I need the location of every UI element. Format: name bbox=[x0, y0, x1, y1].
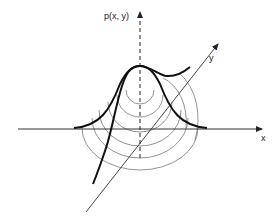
x-axis-label: x bbox=[261, 133, 266, 143]
density-diagram: p(x, y) y x bbox=[0, 0, 278, 222]
marginal-curve-y-back bbox=[140, 66, 190, 76]
y-axis-label: y bbox=[209, 53, 214, 63]
marginal-curve-x bbox=[74, 66, 207, 128]
z-axis-label: p(x, y) bbox=[104, 11, 129, 21]
